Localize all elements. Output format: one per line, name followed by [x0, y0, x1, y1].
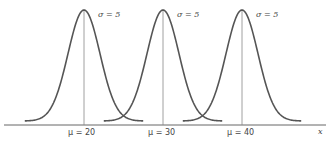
mu-label-2: μ = 30	[148, 128, 175, 137]
sigma-label-1: σ = 5	[98, 10, 120, 19]
x-axis-label: x	[318, 127, 323, 136]
sigma-label-2: σ = 5	[177, 10, 199, 19]
sigma-label-3: σ = 5	[256, 10, 278, 19]
normal-curves-plot	[0, 0, 330, 142]
mu-label-3: μ = 40	[227, 128, 254, 137]
mu-label-1: μ = 20	[68, 128, 95, 137]
